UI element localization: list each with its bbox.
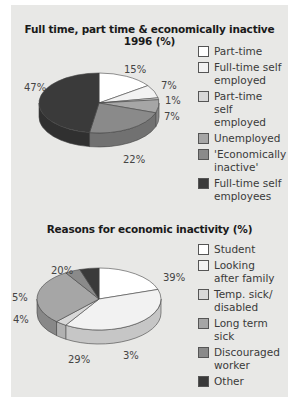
chart-2-legend-item: Looking after family (198, 259, 282, 285)
chart-2-legend-item: Long term sick (198, 317, 282, 343)
chart-1-legend-label: 'Economically inactive' (214, 148, 282, 174)
chart-1-data-label: 7% (164, 111, 180, 122)
chart-1-legend-label: Part-time self employed (214, 90, 282, 129)
chart-2-legend-swatch (198, 376, 209, 387)
chart-1-data-label: 1% (165, 95, 181, 106)
chart-1-data-label: 7% (161, 80, 177, 91)
chart-2-legend-label: Temp. sick/ disabled (214, 288, 282, 314)
chart-1-legend-label: Full-time self employees (214, 177, 282, 203)
chart-1-pie: 15%7%1%7%22%47% (11, 41, 201, 191)
chart-2-legend: StudentLooking after familyTemp. sick/ d… (198, 243, 282, 391)
chart-2-legend-swatch (198, 318, 209, 329)
chart-2-legend-swatch (198, 289, 209, 300)
chart-2-legend-swatch (198, 260, 209, 271)
chart-1-legend-label: Unemployed (214, 132, 282, 145)
chart-2-data-label: 3% (123, 350, 139, 361)
chart-2-legend-label: Looking after family (214, 259, 282, 285)
chart-2-legend-label: Discouraged worker (214, 346, 282, 372)
chart-2-legend-item: Student (198, 243, 282, 256)
chart-1-legend-item: Unemployed (198, 132, 282, 145)
chart-2-data-label: 5% (12, 292, 28, 303)
chart-2-data-label: 4% (13, 314, 29, 325)
chart-1-legend-item: Full-time self employed (198, 61, 282, 87)
chart-2-legend-item: Other (198, 375, 282, 388)
chart-1-legend-label: Part-time (214, 45, 282, 58)
chart-1-legend-swatch (198, 133, 209, 144)
chart-2-legend-label: Other (214, 375, 282, 388)
chart-2-legend-item: Discouraged worker (198, 346, 282, 372)
chart-1-data-label: 15% (124, 64, 146, 75)
chart-1-legend-swatch (198, 178, 209, 189)
chart-2-legend-swatch (198, 244, 209, 255)
chart-1-legend-item: Part-time (198, 45, 282, 58)
chart-2-pie: 20%39%3%29%4%5% (11, 237, 201, 387)
chart-2-data-label: 39% (163, 272, 185, 283)
chart-1-legend-swatch (198, 46, 209, 57)
chart-1-legend-item: Full-time self employees (198, 177, 282, 203)
chart-1-legend-label: Full-time self employed (214, 61, 282, 87)
chart-1-legend-swatch (198, 62, 209, 73)
chart-2-data-label: 29% (68, 354, 90, 365)
chart-1-legend: Part-timeFull-time self employedPart-tim… (198, 45, 282, 206)
chart-2-data-label: 20% (51, 265, 73, 276)
chart-1-legend-swatch (198, 91, 209, 102)
chart-2-legend-label: Long term sick (214, 317, 282, 343)
chart-1-data-label: 47% (24, 82, 46, 93)
chart-1-legend-item: Part-time self employed (198, 90, 282, 129)
chart-2-legend-item: Temp. sick/ disabled (198, 288, 282, 314)
chart-1-data-label: 22% (123, 154, 145, 165)
chart-1-legend-item: 'Economically inactive' (198, 148, 282, 174)
figure-panel: Full time, part time & economically inac… (11, 5, 288, 397)
chart-2-legend-swatch (198, 347, 209, 358)
chart-2-legend-label: Student (214, 243, 282, 256)
chart-1-legend-swatch (198, 149, 209, 160)
chart-2-title: Reasons for economic inactivity (%) (11, 223, 288, 235)
